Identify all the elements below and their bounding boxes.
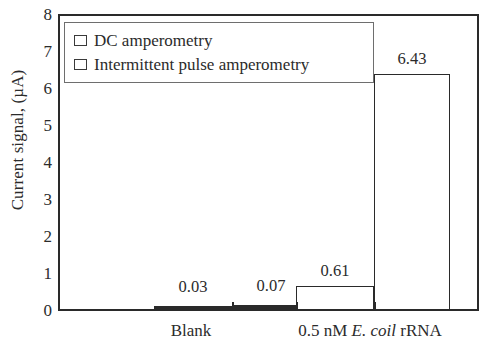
x-category-rrna-species: E. coil xyxy=(352,321,396,340)
y-tick-2: 2 xyxy=(20,228,52,245)
y-tick-4: 4 xyxy=(20,154,52,171)
value-label-rrna-dc: 0.61 xyxy=(296,263,374,280)
x-tick-mark-2 xyxy=(296,302,298,309)
y-tick-0: 0 xyxy=(20,302,52,319)
value-label-blank-ipa: 0.07 xyxy=(232,278,310,295)
y-tick-6: 6 xyxy=(20,80,52,97)
legend-item-intermittent-pulse-amperometry: Intermittent pulse amperometry xyxy=(74,52,364,76)
x-category-rrna: 0.5 nM E. coil rRNA xyxy=(298,322,442,339)
legend-swatch-open-square-icon xyxy=(74,59,87,70)
x-category-rrna-prefix: 0.5 nM xyxy=(298,321,351,340)
y-tick-1: 1 xyxy=(20,265,52,282)
value-label-blank-dc: 0.03 xyxy=(154,279,232,296)
y-tick-7: 7 xyxy=(20,43,52,60)
bar-chart-figure: Current signal, (µA) 8 7 6 5 4 3 2 1 0 0… xyxy=(0,0,493,357)
x-category-rrna-suffix: rRNA xyxy=(396,321,442,340)
x-tick-mark-1 xyxy=(232,302,234,309)
legend-item-dc-amperometry: DC amperometry xyxy=(74,28,364,52)
y-tick-3: 3 xyxy=(20,191,52,208)
y-tick-8: 8 xyxy=(20,6,52,23)
y-axis-tick-labels: 8 7 6 5 4 3 2 1 0 xyxy=(20,0,52,357)
x-tick-mark-3 xyxy=(374,302,376,309)
bar-blank-dc xyxy=(154,306,232,309)
plot-area: 0.03 0.07 0.61 6.43 DC amperometry Inter… xyxy=(58,14,479,311)
chart-legend: DC amperometry Intermittent pulse ampero… xyxy=(64,22,374,83)
y-tick-5: 5 xyxy=(20,117,52,134)
x-category-blank: Blank xyxy=(171,322,212,339)
x-axis-category-labels: Blank 0.5 nM E. coil rRNA xyxy=(58,322,479,348)
value-label-rrna-ipa: 6.43 xyxy=(374,51,450,68)
legend-label-dc-amperometry: DC amperometry xyxy=(94,32,213,49)
bar-rrna-ipa xyxy=(374,74,450,309)
legend-swatch-open-square-icon xyxy=(74,35,87,46)
legend-label-intermittent-pulse-amperometry: Intermittent pulse amperometry xyxy=(94,56,309,73)
